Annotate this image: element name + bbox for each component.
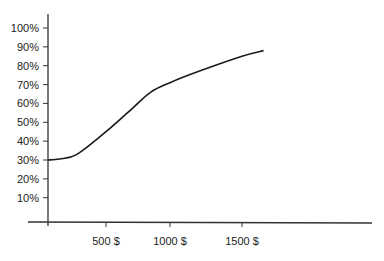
x-tick-label: 500 $ <box>92 235 120 247</box>
x-axis <box>28 222 372 223</box>
y-tick-label: 100% <box>11 22 39 34</box>
y-tick-label: 80% <box>17 60 39 72</box>
chart-canvas: 10%20%30%40%50%60%70%80%90%100% 500 $100… <box>0 0 384 261</box>
axes <box>28 14 372 226</box>
y-ticks: 10%20%30%40%50%60%70%80%90%100% <box>11 22 48 204</box>
line-chart: 10%20%30%40%50%60%70%80%90%100% 500 $100… <box>0 0 384 261</box>
x-tick-label: 1000 $ <box>153 235 187 247</box>
y-tick-label: 10% <box>17 192 39 204</box>
x-tick-label: 1500 $ <box>225 235 259 247</box>
x-ticks: 500 $1000 $1500 $ <box>92 222 259 247</box>
y-tick-label: 50% <box>17 116 39 128</box>
y-tick-label: 70% <box>17 79 39 91</box>
y-tick-label: 30% <box>17 154 39 166</box>
y-tick-label: 90% <box>17 41 39 53</box>
y-tick-label: 20% <box>17 173 39 185</box>
data-line <box>48 51 264 160</box>
y-tick-label: 40% <box>17 135 39 147</box>
y-tick-label: 60% <box>17 97 39 109</box>
